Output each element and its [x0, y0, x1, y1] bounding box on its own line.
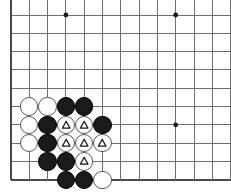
black-stone[interactable]: [57, 171, 75, 189]
triangle-mark-icon: [62, 139, 70, 146]
triangle-mark-icon: [99, 139, 107, 146]
white-stone[interactable]: [20, 134, 38, 152]
black-stone[interactable]: [38, 152, 56, 170]
triangle-mark-layer: [76, 153, 92, 169]
white-stone[interactable]: [75, 152, 93, 170]
white-stone[interactable]: [57, 134, 75, 152]
white-stone[interactable]: [75, 134, 93, 152]
black-stone[interactable]: [75, 97, 93, 115]
white-stone[interactable]: [38, 97, 56, 115]
black-stone[interactable]: [57, 97, 75, 115]
white-stone[interactable]: [93, 134, 111, 152]
triangle-mark-layer: [58, 117, 74, 133]
triangle-mark-icon: [80, 121, 88, 128]
stone-layer: [0, 0, 231, 193]
go-board-diagram: Go board corner position: [0, 0, 231, 193]
white-stone[interactable]: [75, 116, 93, 134]
triangle-mark-icon: [62, 121, 70, 128]
black-stone[interactable]: [38, 116, 56, 134]
white-stone[interactable]: [57, 116, 75, 134]
black-stone[interactable]: [75, 171, 93, 189]
triangle-mark-layer: [76, 135, 92, 151]
triangle-mark-layer: [76, 117, 92, 133]
triangle-mark-icon: [80, 157, 88, 164]
triangle-mark-icon: [80, 139, 88, 146]
white-stone[interactable]: [93, 171, 111, 189]
white-stone[interactable]: [20, 97, 38, 115]
black-stone[interactable]: [57, 152, 75, 170]
black-stone[interactable]: [93, 116, 111, 134]
black-stone[interactable]: [38, 134, 56, 152]
white-stone[interactable]: [20, 116, 38, 134]
triangle-mark-layer: [94, 135, 110, 151]
triangle-mark-layer: [58, 135, 74, 151]
